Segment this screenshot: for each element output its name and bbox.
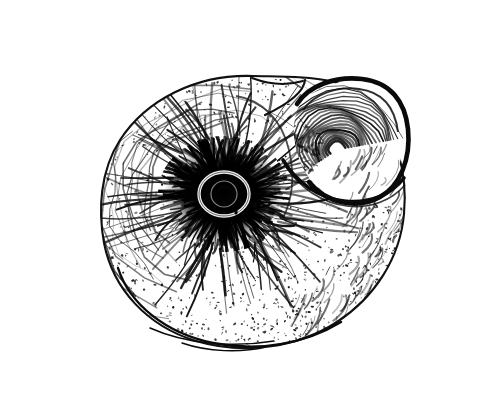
figure-root — [0, 0, 497, 405]
shell-illustration — [0, 0, 497, 405]
